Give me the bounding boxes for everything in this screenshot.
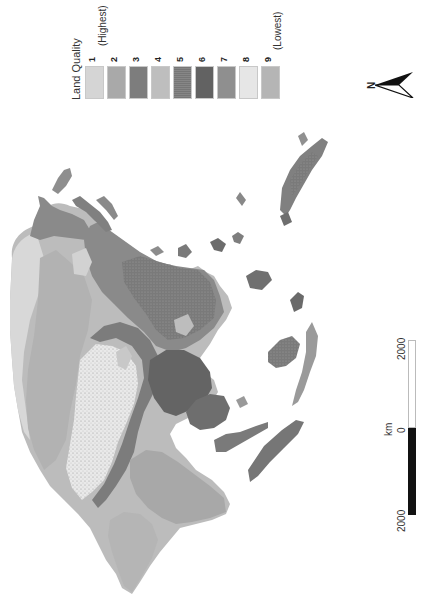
northern-archipelago-tip	[298, 132, 308, 146]
island-small-5	[236, 192, 246, 206]
island-arc-3	[246, 270, 272, 290]
legend-note-lowest: (Lowest)	[272, 12, 283, 50]
island-arc-2	[268, 336, 300, 368]
north-arrow: N	[366, 70, 416, 98]
legend-value-1: 1	[87, 57, 97, 62]
island-arc-4	[290, 292, 304, 312]
legend-swatch-6	[195, 66, 214, 99]
legend-value-4: 4	[153, 57, 163, 62]
legend-swatch-9	[261, 66, 280, 99]
scale-tick-2000-top: 2000	[396, 338, 407, 360]
legend-swatch-7	[217, 66, 236, 99]
scale-tick-2000-bottom: 2000	[396, 510, 407, 532]
upper-archipelago-1	[52, 168, 72, 194]
island-small-6	[236, 396, 248, 408]
scale-unit: km	[383, 423, 394, 436]
scale-segment-empty	[408, 340, 416, 428]
legend-value-9: 9	[263, 57, 273, 62]
legend-swatch-3	[129, 66, 148, 99]
legend-value-6: 6	[197, 57, 207, 62]
legend-note-highest: (Highest)	[97, 5, 108, 46]
peninsula-strip	[214, 422, 268, 452]
scale-tick-0: 0	[396, 427, 407, 433]
legend-value-3: 3	[131, 57, 141, 62]
island-small-4	[150, 246, 164, 256]
legend-value-5: 5	[175, 57, 185, 62]
legend-value-7: 7	[219, 57, 229, 62]
scale-segment-filled	[408, 428, 416, 515]
legend-swatch-5	[173, 66, 192, 99]
island-small-1	[178, 244, 192, 258]
legend-title: Land Quality	[70, 38, 82, 100]
mainland	[10, 203, 232, 594]
legend-value-2: 2	[109, 57, 119, 62]
legend-swatch-2	[107, 66, 126, 99]
island-small-2	[210, 238, 226, 252]
legend-swatch-8	[239, 66, 258, 99]
island-arc-5	[292, 322, 318, 406]
legend-value-8: 8	[241, 57, 251, 62]
legend-swatch-4	[151, 66, 170, 99]
northern-archipelago-isle	[280, 212, 292, 226]
legend-swatch-1	[85, 66, 104, 99]
island-small-3	[232, 232, 244, 244]
north-arrow-icon	[375, 72, 415, 98]
